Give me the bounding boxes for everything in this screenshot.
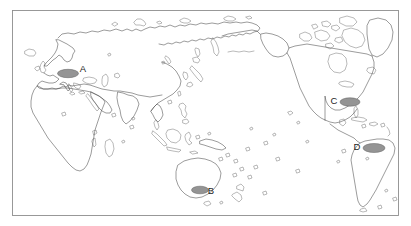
coastline-moluccas <box>196 135 200 139</box>
coastline-iceland <box>25 49 36 56</box>
marker-ellipse-c[interactable] <box>340 98 360 106</box>
coastline-ocean-dot-h <box>366 157 369 160</box>
coastline-newfoundland <box>367 67 376 74</box>
coastline-pacific-islet-b <box>234 159 238 163</box>
coastline-falkland-islands <box>378 205 382 209</box>
coastline-cuba <box>352 117 367 122</box>
marker-ellipse-d[interactable] <box>363 144 385 153</box>
map-frame-border <box>13 11 399 216</box>
coastline-ocean-dot-a <box>122 140 125 143</box>
marker-ellipse-a[interactable] <box>58 69 79 77</box>
marker-label-d: D <box>354 141 361 152</box>
coastline-severnaya-zemlya <box>180 18 191 23</box>
coastline-gulf-of-mexico <box>325 109 357 123</box>
coastline-ocean-dot-f <box>306 140 309 143</box>
map-marker-c[interactable]: C <box>331 95 360 107</box>
coastline-caspian-sea <box>102 74 108 87</box>
markers-layer: A B C D <box>58 63 386 196</box>
coastline-eurasia-south-interior <box>72 84 162 97</box>
coastline-victoria-island <box>315 30 330 41</box>
map-marker-a[interactable]: A <box>58 63 87 78</box>
coastline-ocean-dot-k <box>108 53 111 56</box>
coastlines-layer <box>25 16 397 212</box>
coastline-ocean-dot-i <box>220 201 223 204</box>
coastline-pacific-islet-k <box>296 169 300 173</box>
coastline-alaska <box>261 33 289 57</box>
coastline-black-sea <box>83 77 97 84</box>
coastline-philippines <box>179 103 187 118</box>
coastline-south-atlantic-islet <box>385 189 388 192</box>
coastline-japan-hokkaido <box>193 57 200 63</box>
coastline-taiwan <box>178 91 181 96</box>
coastline-canada-north <box>289 44 372 56</box>
coastline-ocean-dot-d <box>250 127 253 130</box>
coastline-arctic-island-a <box>322 21 331 27</box>
coastline-java <box>167 147 181 152</box>
coastline-tierra-del-fuego <box>360 208 367 212</box>
world-map-figure: A B C D <box>0 0 411 226</box>
coastline-madagascar <box>105 139 114 157</box>
coastline-aral-sea <box>115 73 120 78</box>
coastline-ocean-dot-b <box>132 117 135 120</box>
coastline-new-siberian-islands <box>224 16 236 21</box>
coastline-socotra <box>112 113 116 117</box>
coastline-sri-lanka <box>130 125 134 129</box>
coastline-new-zealand-north <box>237 184 244 191</box>
coastline-greenland <box>367 18 393 57</box>
coastline-red-sea <box>86 94 99 111</box>
marker-ellipse-b[interactable] <box>192 186 209 194</box>
coastline-arctic-islet-c <box>246 16 252 19</box>
coastline-pacific-islet-a <box>226 153 230 157</box>
coastline-tasmania <box>204 201 211 206</box>
coastline-timor <box>190 151 198 154</box>
coastline-arctic-islet-b <box>157 21 162 24</box>
coastline-mediterranean-north <box>60 82 70 91</box>
coastline-sumatra <box>152 131 167 146</box>
coastline-galapagos <box>342 149 346 153</box>
coastline-scandinavia <box>44 40 75 66</box>
coastline-bering-chukotka <box>222 30 260 36</box>
coastline-pacific-islet-d <box>248 175 252 179</box>
coastline-arctic-islet-a <box>112 22 118 26</box>
coastline-indochina <box>151 104 163 122</box>
coastline-puerto-rico <box>381 123 385 127</box>
map-marker-d[interactable]: D <box>354 141 385 153</box>
coastline-new-zealand-south <box>232 192 242 202</box>
coastline-pacific-islet-g <box>254 165 258 169</box>
coastline-novaya-zemlya <box>134 19 146 26</box>
coastline-lesser-antilles <box>387 127 390 136</box>
coastline-china-east <box>151 62 181 111</box>
coastline-hawaii <box>288 111 293 115</box>
map-marker-b[interactable]: B <box>192 185 215 196</box>
coastline-ireland <box>35 66 40 71</box>
coastline-arabia <box>91 92 112 113</box>
coastline-new-guinea <box>200 139 226 150</box>
coastline-ocean-dot-e <box>273 133 276 136</box>
coastline-japan-honshu <box>190 66 203 82</box>
coastline-ellesmere-island <box>340 16 357 26</box>
marker-label-c: C <box>331 95 338 106</box>
coastline-banks-island <box>300 32 312 41</box>
coastline-pacific-islet-e <box>233 173 237 177</box>
coastline-pacific-islet-l <box>263 191 267 195</box>
coastline-japan-kyushu <box>187 82 193 87</box>
coastline-africa <box>31 86 105 171</box>
marker-label-b: B <box>208 185 214 196</box>
marker-label-a: A <box>80 63 87 74</box>
coastline-sicily <box>70 92 75 95</box>
coastline-kamchatka <box>211 38 219 56</box>
coastline-baffin-island <box>342 28 365 48</box>
coastline-north-america-east <box>325 56 374 120</box>
coastline-pacific-islet-h <box>264 141 268 145</box>
coastline-ocean-dot-c <box>208 132 211 135</box>
coastline-borneo <box>166 129 181 143</box>
coastline-greece-balkans <box>74 83 81 89</box>
coastline-arctic-island-c <box>312 24 318 29</box>
coastline-arctic-island-d <box>335 37 343 43</box>
coastline-pacific-islet-c <box>240 167 244 171</box>
coastline-arctic-island-b <box>332 25 340 31</box>
coastline-north-america-west <box>287 53 325 120</box>
coastline-ocean-dot-l <box>297 121 300 124</box>
world-map-svg: A B C D <box>0 0 411 226</box>
coastline-sakhalin <box>195 48 200 57</box>
